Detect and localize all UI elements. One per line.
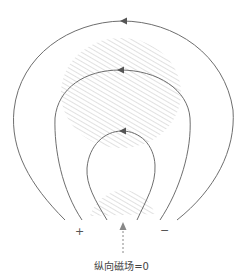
minus-sign: − bbox=[160, 225, 169, 236]
caption-label: 纵向磁场=0 bbox=[0, 258, 243, 273]
plus-sign: + bbox=[75, 226, 84, 237]
outer-arrow-icon bbox=[120, 18, 127, 25]
magnetic-field-diagram bbox=[0, 0, 243, 277]
dashed-arrow-head-icon bbox=[120, 222, 127, 230]
